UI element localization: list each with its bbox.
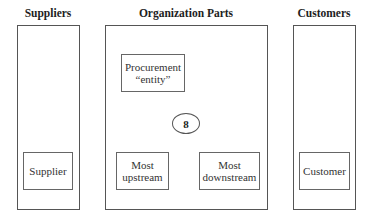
- supplier-node: Supplier: [23, 152, 73, 190]
- customers-title: Customers: [293, 7, 355, 19]
- supplier-label: Supplier: [29, 165, 66, 178]
- customer-label: Customer: [303, 165, 346, 178]
- marker-oval: 8: [172, 113, 200, 134]
- most-downstream-line1: Most: [218, 159, 241, 172]
- most-upstream-node: Most upstream: [116, 152, 169, 190]
- most-upstream-line2: upstream: [122, 171, 162, 184]
- most-downstream-node: Most downstream: [199, 152, 260, 190]
- entity-label: “entity”: [136, 73, 171, 86]
- marker-label: 8: [183, 118, 189, 130]
- customer-node: Customer: [299, 152, 350, 190]
- suppliers-title: Suppliers: [17, 7, 79, 19]
- procurement-label: Procurement: [125, 61, 181, 74]
- organization-parts-title: Organization Parts: [105, 7, 267, 19]
- procurement-entity-node: Procurement “entity”: [121, 54, 185, 92]
- most-upstream-line1: Most: [131, 159, 154, 172]
- most-downstream-line2: downstream: [203, 171, 257, 184]
